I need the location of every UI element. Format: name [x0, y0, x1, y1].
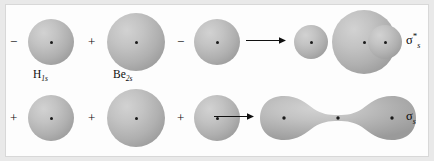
h-1s-orbital-bonding [28, 95, 74, 141]
antibonding-row: − H1s + Be2s − [6, 5, 428, 80]
sigma-star-lobe-left [294, 25, 328, 59]
operator-plus-1: + [88, 35, 95, 48]
be-2s-orbital-bonding [107, 89, 165, 147]
h-1s-orbital-antibonding [28, 19, 74, 65]
sigma-star-s-label: σ*s [406, 32, 420, 50]
nucleus-dot [384, 41, 387, 44]
nucleus-dot [282, 116, 285, 119]
bonding-row: + + + [6, 81, 428, 156]
be-2s-orbital-antibonding [107, 13, 165, 71]
sigma-s-label: σs [406, 110, 416, 126]
transformation-arrow-icon [246, 36, 286, 45]
nucleus-dot [310, 41, 313, 44]
operator-plus-2: + [10, 111, 17, 124]
operator-plus-4: + [177, 111, 184, 124]
h-1s-orbital-antibonding-2 [194, 19, 240, 65]
nucleus-dot [216, 41, 219, 44]
nucleus-dot [363, 41, 366, 44]
nucleus-dot [50, 41, 53, 44]
molecular-orbital-figure: − H1s + Be2s − [0, 0, 434, 161]
operator-plus-3: + [88, 111, 95, 124]
operator-minus-1: − [10, 35, 17, 48]
nucleus-dot [390, 116, 393, 119]
nucleus-dot [135, 117, 138, 120]
figure-plate: − H1s + Be2s − [6, 5, 428, 156]
nucleus-dot [336, 116, 339, 119]
sigma-star-lobe-right [368, 25, 402, 59]
transformation-arrow-icon [214, 112, 254, 121]
nucleus-dot [50, 117, 53, 120]
sigma-s-bonding-orbital [258, 89, 418, 147]
nucleus-dot [135, 41, 138, 44]
operator-minus-2: − [177, 35, 184, 48]
